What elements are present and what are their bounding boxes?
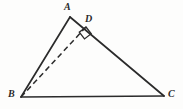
segment-altitude-BD bbox=[21, 27, 86, 97]
segment-side-AB bbox=[21, 17, 70, 97]
vertex-label-c: C bbox=[168, 89, 175, 99]
vertex-label-d: D bbox=[85, 14, 92, 24]
geometry-figure: A D B C bbox=[0, 0, 183, 109]
vertex-label-a: A bbox=[64, 2, 71, 12]
segment-side-BC bbox=[21, 96, 164, 97]
vertex-label-b: B bbox=[8, 89, 15, 99]
